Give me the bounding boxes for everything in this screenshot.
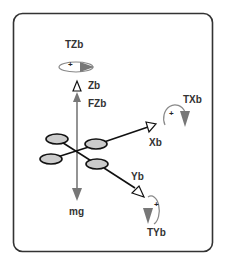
torque-x-plus: + [169, 109, 174, 118]
torque-z-plus: + [68, 60, 73, 69]
torque-y-label: TYb [147, 227, 166, 238]
zb-label: Zb [88, 80, 100, 91]
fzb-label: FZb [88, 98, 106, 109]
yb-label: Yb [131, 171, 144, 182]
propeller-front-right [85, 139, 107, 149]
xb-label: Xb [149, 137, 162, 148]
propeller-rear-left [40, 154, 62, 164]
gravity-label: mg [69, 206, 84, 217]
propeller-front-left [46, 134, 68, 144]
frame-border [14, 14, 213, 252]
propeller-rear-right [86, 159, 108, 169]
quadrotor-diagram: + TZb Zb FZb Xb + TXb Yb [0, 0, 225, 265]
torque-z-label: TZb [65, 39, 83, 50]
torque-y-plus: + [154, 200, 159, 209]
torque-x-label: TXb [183, 94, 202, 105]
